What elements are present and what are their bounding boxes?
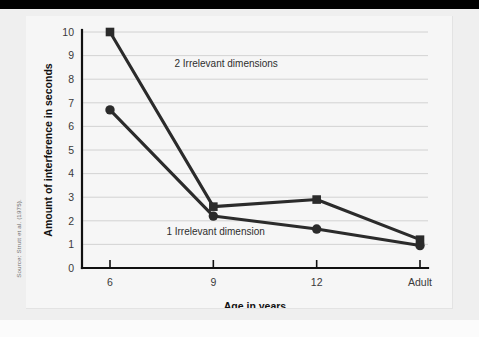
x-axis-tick-labels: 6912Adult [107,276,432,288]
y-tick-label: 10 [62,26,74,38]
data-point-marker [312,224,321,233]
data-point-marker [209,202,218,211]
y-tick-label: 9 [68,49,74,61]
figure-page: Source: Strutt et al. (1975). 0123456789… [0,0,479,337]
page-top-rule [0,0,479,9]
page-bottom-strip [0,320,479,337]
y-tick-label: 8 [68,73,74,85]
data-point-marker [105,105,114,114]
x-tick-label: 9 [210,276,216,288]
y-tick-label: 4 [68,167,74,179]
y-tick-label: 3 [68,191,74,203]
series-annotations-group: 2 Irrelevant dimensions1 Irrelevant dime… [166,58,277,238]
y-tick-label: 1 [68,238,74,250]
y-tick-label: 2 [68,215,74,227]
x-tick-label: Adult [408,276,432,288]
y-axis-tick-labels: 012345678910 [62,26,74,274]
series-annotation: 2 Irrelevant dimensions [174,58,277,69]
x-tick-label: 12 [311,276,323,288]
data-point-marker [415,241,424,250]
line-chart: 012345678910 6912Adult 2 Irrelevant dime… [26,16,452,308]
chart-svg: 012345678910 6912Adult 2 Irrelevant dime… [26,16,452,308]
data-point-marker [209,211,218,220]
x-axis-title: Age in years [224,300,287,308]
source-credit: Source: Strutt et al. (1975). [15,191,22,287]
y-tick-label: 7 [68,97,74,109]
series-line [110,110,420,246]
x-tick-label: 6 [107,276,113,288]
data-point-marker [312,195,321,204]
data-point-marker [106,28,115,37]
y-tick-label: 5 [68,144,74,156]
y-tick-label: 6 [68,120,74,132]
y-tick-label: 0 [68,262,74,274]
figure-card: 012345678910 6912Adult 2 Irrelevant dime… [26,16,453,309]
series-annotation: 1 Irrelevant dimension [166,226,264,237]
x-axis-ticks [110,260,420,268]
y-axis-title: Amount of interference in seconds [42,63,54,236]
